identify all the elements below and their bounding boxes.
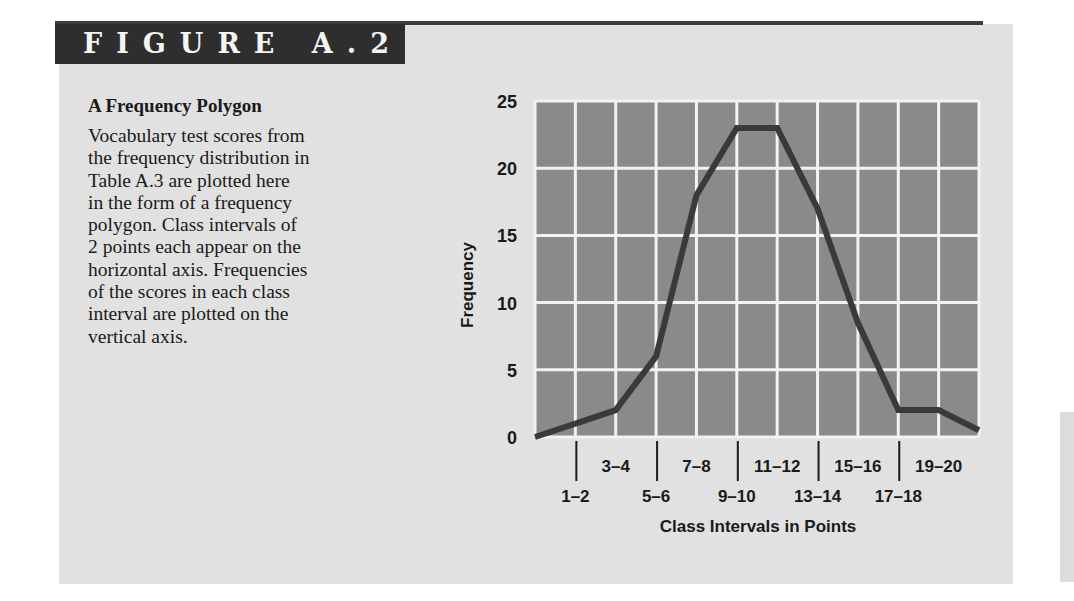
plot-background: [535, 101, 979, 437]
x-tick-label-bottom: 13–14: [794, 487, 842, 506]
y-axis-ticks: 0510152025: [497, 92, 517, 448]
y-tick-label: 10: [497, 294, 517, 314]
x-tick-label-top: 15–16: [834, 457, 881, 476]
x-tick-label-top: 7–8: [682, 457, 710, 476]
y-axis-label: Frequency: [458, 241, 477, 328]
x-tick-label-bottom: 9–10: [718, 487, 756, 506]
x-tick-label-bottom: 1–2: [561, 487, 589, 506]
x-axis-label: Class Intervals in Points: [660, 517, 857, 536]
y-tick-label: 25: [497, 92, 517, 112]
x-tick-label-top: 3–4: [602, 457, 631, 476]
x-tick-label-bottom: 17–18: [875, 487, 922, 506]
y-tick-label: 20: [497, 159, 517, 179]
plot-area: [535, 101, 979, 437]
y-tick-label: 0: [507, 428, 517, 448]
y-tick-label: 15: [497, 226, 517, 246]
y-tick-label: 5: [507, 361, 517, 381]
x-axis-ticks: 3–47–811–1215–1619–201–25–69–1013–1417–1…: [561, 441, 962, 506]
x-tick-label-bottom: 5–6: [642, 487, 670, 506]
x-tick-label-top: 19–20: [915, 457, 962, 476]
x-tick-label-top: 11–12: [754, 457, 800, 476]
frequency-polygon-chart: 0510152025 3–47–811–1215–1619–201–25–69–…: [0, 0, 1074, 601]
